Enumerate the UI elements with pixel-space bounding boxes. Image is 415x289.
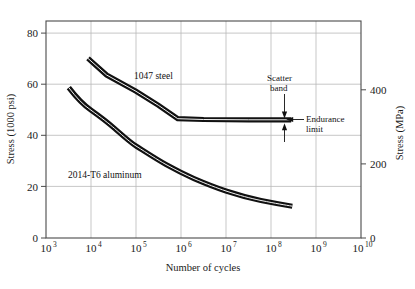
xtick-exp-1e8: 8 (278, 240, 282, 249)
ytick-label-20: 20 (27, 181, 39, 193)
xtick-label-1e6: 10 6 (176, 240, 193, 254)
ytick-label-80: 80 (27, 27, 39, 39)
ytick-label-60: 60 (27, 78, 39, 90)
scatter-band-label-line1: Scatter (267, 73, 292, 83)
xtick-base-1e3: 10 (41, 242, 53, 254)
xtick-base-1e6: 10 (176, 242, 188, 254)
xtick-base-1e7: 10 (221, 242, 233, 254)
left-axis-ticks (41, 33, 46, 238)
chart-canvas: 0 20 40 60 80 0 200 400 10 3 10 4 10 5 (0, 0, 415, 289)
xtick-label-1e10: 10 10 (353, 240, 373, 254)
xtick-label-1e7: 10 7 (221, 240, 238, 254)
y-axis-title: Stress (1000 psi) (5, 93, 17, 164)
xtick-label-1e8: 10 8 (266, 240, 283, 254)
endurance-limit-label-line2: limit (306, 124, 324, 134)
xtick-labels: 10 3 10 4 10 5 10 6 10 7 10 8 (41, 240, 373, 254)
xtick-base-1e5: 10 (131, 242, 143, 254)
scatter-band-label-line2: band (270, 83, 288, 93)
xtick-exp-1e5: 5 (143, 240, 147, 249)
xtick-base-1e8: 10 (266, 242, 278, 254)
xtick-exp-1e9: 9 (323, 240, 327, 249)
xtick-base-1e4: 10 (86, 242, 98, 254)
xtick-base-1e10: 10 (353, 242, 365, 254)
xtick-label-1e9: 10 9 (311, 240, 328, 254)
xtick-label-1e3: 10 3 (41, 240, 58, 254)
y2tick-label-400: 400 (370, 84, 387, 96)
y2tick-label-200: 200 (370, 158, 387, 170)
xtick-exp-1e7: 7 (233, 240, 237, 249)
x-axis-title: Number of cycles (166, 262, 241, 273)
endurance-limit-label-line1: Endurance (306, 114, 344, 124)
xtick-label-1e4: 10 4 (86, 240, 103, 254)
xtick-label-1e5: 10 5 (131, 240, 148, 254)
ytick-label-40: 40 (27, 129, 39, 141)
y2-axis-title: Stress (MPa) (394, 105, 406, 160)
xtick-exp-1e4: 4 (98, 240, 102, 249)
ytick-label-0: 0 (33, 232, 39, 244)
fatigue-sn-curve-figure: 0 20 40 60 80 0 200 400 10 3 10 4 10 5 (0, 0, 415, 289)
xtick-exp-1e6: 6 (188, 240, 192, 249)
right-axis-ticks (361, 90, 366, 238)
xtick-exp-1e3: 3 (53, 240, 57, 249)
series-label-steel: 1047 steel (134, 71, 173, 81)
xtick-exp-1e10: 10 (365, 240, 373, 249)
xtick-base-1e9: 10 (311, 242, 323, 254)
series-label-aluminum: 2014-T6 aluminum (68, 170, 142, 180)
